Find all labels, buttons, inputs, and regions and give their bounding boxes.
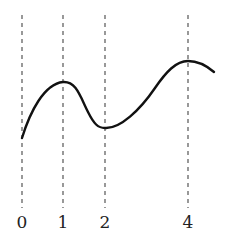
tick-label-2: 2 [100,212,111,232]
tick-label-1: 1 [58,212,69,232]
tick-label-0: 0 [17,212,28,232]
tick-labels: 0 1 2 4 [17,212,194,232]
curve-diagram: 0 1 2 4 [0,0,227,241]
curve [22,61,214,138]
tick-label-4: 4 [183,212,194,232]
reference-lines [22,15,188,208]
